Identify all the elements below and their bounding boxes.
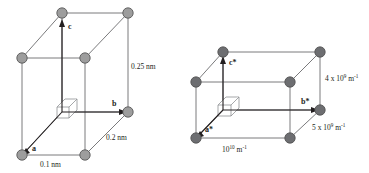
lattice-node xyxy=(285,133,295,143)
reciprocal-inner-unit-cell xyxy=(218,97,239,116)
lattice-node xyxy=(80,53,90,63)
direct-lattice-cell: c b a 0.25 nm 0.2 nm 0.1 nm xyxy=(17,8,156,169)
dimension-label-c: 0.25 nm xyxy=(131,62,156,71)
axis-c-arrowhead xyxy=(59,19,65,27)
lattice-node xyxy=(191,133,201,143)
axis-label-a-star: a* xyxy=(205,125,213,134)
lattice-node xyxy=(315,47,325,57)
lattice-diagram-svg: c b a 0.25 nm 0.2 nm 0.1 nm xyxy=(0,0,369,173)
lattice-node xyxy=(123,8,133,18)
lattice-node xyxy=(285,77,295,87)
lattice-node xyxy=(218,47,228,57)
dimension-label-b-star: 5 x 109 m-1 xyxy=(312,122,346,132)
lattice-node xyxy=(315,105,325,115)
lattice-node xyxy=(80,150,90,160)
lattice-node xyxy=(123,107,133,117)
lattice-node xyxy=(17,150,27,160)
lattice-node xyxy=(17,53,27,63)
dimension-label-c-star: 4 x 109 m-1 xyxy=(325,73,359,83)
direct-inner-unit-cell xyxy=(57,99,77,118)
axis-label-a: a xyxy=(32,144,36,153)
axis-label-b: b xyxy=(112,99,117,108)
dimension-label-a-star: 1010 m-1 xyxy=(222,144,247,154)
axis-label-c-star: c* xyxy=(229,58,237,67)
axis-label-c: c xyxy=(68,22,72,31)
reciprocal-cell-edges xyxy=(196,52,320,138)
dimension-label-b: 0.2 nm xyxy=(106,133,127,142)
lattice-figure: c b a 0.25 nm 0.2 nm 0.1 nm xyxy=(0,0,369,173)
reciprocal-lattice-cell: c* b* a* 4 x 109 m-1 5 x 109 m-1 1010 m-… xyxy=(191,47,359,154)
lattice-node xyxy=(57,8,67,18)
dimension-label-a: 0.1 nm xyxy=(40,160,61,169)
axis-label-b-star: b* xyxy=(301,97,309,106)
lattice-node xyxy=(191,77,201,87)
